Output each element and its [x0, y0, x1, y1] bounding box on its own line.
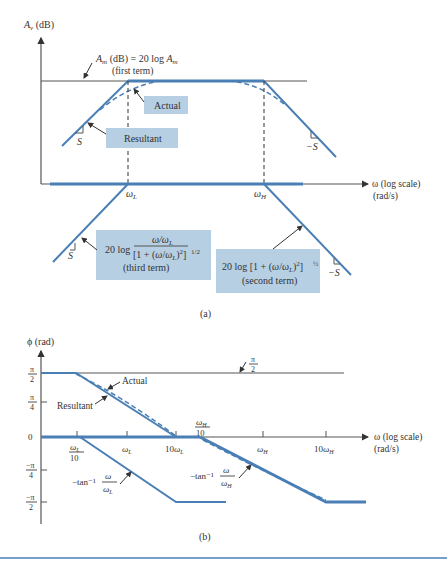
caption-a: (a)	[200, 308, 211, 320]
tan-l-prefix: −tan⁻¹	[72, 477, 96, 487]
svg-text:ωL: ωL	[103, 484, 113, 495]
phase-lag-l-curve	[80, 437, 226, 502]
svg-text:ωH: ωH	[257, 444, 268, 455]
x-axis-unit: (rad/s)	[373, 191, 398, 202]
svg-text:π: π	[30, 365, 34, 374]
svg-text:ωL: ωL	[70, 442, 80, 453]
x-axis-unit-b: (rad/s)	[374, 444, 399, 455]
svg-text:π: π	[251, 355, 255, 364]
svg-text:ω: ω	[223, 465, 229, 475]
slope-s-bottom-label: S	[68, 250, 73, 261]
svg-text:10ωL: 10ωL	[165, 444, 184, 455]
svg-text:0: 0	[28, 432, 33, 442]
third-term-prefix: 20 log	[105, 244, 130, 255]
second-term-exponent: ½	[313, 260, 318, 268]
svg-text:ωH: ωH	[196, 417, 207, 428]
y-axis-label: Av (dB)	[23, 19, 54, 32]
svg-text:π: π	[30, 393, 34, 402]
second-term-caption: (second term)	[242, 275, 297, 287]
third-term-caption: (third term)	[123, 262, 169, 274]
svg-text:2: 2	[251, 365, 255, 374]
third-term-denominator: [1 + (ω/ωL)2]	[133, 248, 186, 262]
omega-l-label: ωL	[126, 188, 137, 201]
svg-text:−π: −π	[26, 493, 35, 502]
resultant-label: Resultant	[124, 133, 162, 144]
phase-actual-label: Actual	[122, 376, 148, 386]
x-axis-label: ω (log scale)	[372, 179, 420, 190]
omega-h-label: ωH	[254, 188, 267, 201]
caption-b: (b)	[199, 531, 211, 543]
svg-text:4: 4	[30, 403, 34, 412]
bode-diagram: Av (dB) ω (log scale) (rad/s) Am (dB) = …	[0, 0, 447, 566]
first-term-label: Am (dB) = 20 log Am	[95, 53, 178, 66]
magnitude-plot: Av (dB) ω (log scale) (rad/s) Am (dB) = …	[23, 19, 420, 320]
svg-text:ω: ω	[105, 471, 111, 481]
slope-neg-s-label: −S	[306, 141, 318, 152]
svg-text:4: 4	[29, 471, 33, 480]
slope-neg-s-bottom-label: −S	[328, 267, 340, 278]
resultant-curve	[62, 81, 336, 157]
x-axis-label-b: ω (log scale)	[374, 432, 422, 443]
phase-resultant-label: Resultant	[57, 401, 93, 411]
third-term-exponent: 1/2	[191, 248, 200, 256]
svg-text:−π: −π	[26, 461, 35, 470]
svg-text:ωH: ωH	[221, 478, 232, 489]
slope-s-label: S	[77, 136, 82, 147]
svg-text:ωL: ωL	[122, 444, 132, 455]
svg-text:10: 10	[70, 453, 79, 463]
tan-h-prefix: −tan⁻¹	[190, 471, 214, 481]
svg-text:2: 2	[29, 503, 33, 512]
svg-text:10ωH: 10ωH	[314, 444, 334, 455]
phase-plot: ϕ (rad) ω (log scale) (rad/s) π 2 π 4 0 …	[26, 336, 422, 543]
y-axis-label-b: ϕ (rad)	[27, 336, 54, 348]
first-term-caption: (first term)	[112, 66, 153, 77]
svg-text:2: 2	[30, 375, 34, 384]
actual-label: Actual	[154, 100, 181, 111]
